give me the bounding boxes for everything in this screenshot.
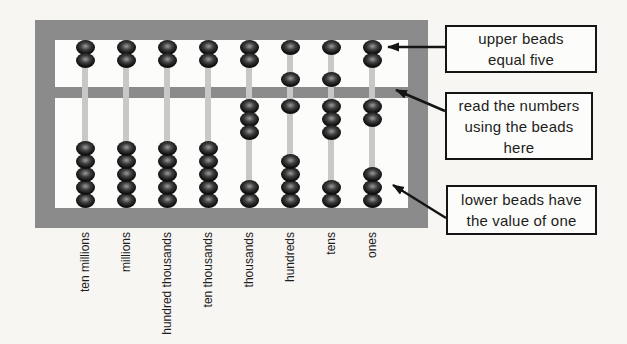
bead [117,141,136,156]
bead [240,193,259,208]
bead [199,180,218,195]
column-label: millions [119,232,133,272]
bead [158,193,177,208]
abacus-frame [35,20,428,228]
callout-lower-beads: lower beads have the value of one [446,185,597,235]
column-label: hundreds [283,232,297,282]
bead [158,180,177,195]
bead [199,154,218,169]
bead [322,125,341,140]
callout-upper-beads: upper beads equal five [445,25,597,73]
callout-line: upper beads [478,28,564,49]
bead [158,167,177,182]
bead [76,180,95,195]
bead [363,180,382,195]
bead [158,53,177,68]
bead [117,53,136,68]
bead [322,72,341,87]
bead [76,141,95,156]
bead [363,167,382,182]
column-label: ten millions [78,232,92,292]
bead [281,72,300,87]
column-label: hundred thousands [160,232,174,335]
bead [322,193,341,208]
callout-line: here [504,137,535,158]
bead [117,154,136,169]
bead [199,53,218,68]
bead [281,193,300,208]
callout-line: equal five [488,49,554,70]
bead [281,180,300,195]
bead [240,53,259,68]
callout-line: using the beads [465,116,574,137]
bead [240,180,259,195]
bead [363,53,382,68]
bead [76,167,95,182]
column-label: tens [324,232,338,255]
bead [117,193,136,208]
bead [281,167,300,182]
bead [199,193,218,208]
bead [76,154,95,169]
bead [322,40,341,55]
abacus-diagram: ten millionsmillionshundred thousandsten… [0,0,627,344]
bead [117,167,136,182]
column-label: ones [365,232,379,258]
callout-line: the value of one [467,210,577,231]
bead [281,154,300,169]
bead [281,40,300,55]
bead [76,53,95,68]
bead [363,193,382,208]
bead [199,141,218,156]
bead [281,99,300,114]
bead [240,125,259,140]
callout-read-numbers: read the numbers using the beads here [445,92,593,160]
bead [117,180,136,195]
column-label: ten thousands [201,232,215,307]
bead [199,167,218,182]
bead [158,154,177,169]
abacus-inner [55,40,408,208]
bead [363,112,382,127]
bead [158,141,177,156]
middle-bar [55,87,408,98]
bead [76,193,95,208]
column-label: thousands [242,232,256,287]
callout-line: read the numbers [459,95,580,116]
callout-line: lower beads have [461,189,582,210]
bead [322,180,341,195]
